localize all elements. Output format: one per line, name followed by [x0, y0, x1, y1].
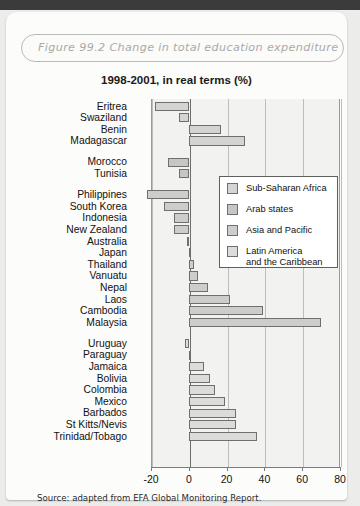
chart-legend: Sub-Saharan AfricaArab statesAsia and Pa… [219, 176, 338, 268]
x-tick-label-80: 80 [334, 473, 346, 485]
bar [179, 113, 188, 122]
x-tick-label-60: 60 [296, 473, 308, 485]
legend-swatch-3 [227, 225, 238, 236]
bar-row: Colombia [6, 384, 347, 396]
bar [189, 283, 208, 292]
category-label: St Kitts/Nevis [0, 419, 127, 431]
category-label: Nepal [0, 282, 127, 294]
category-label: Paraguay [0, 349, 127, 361]
category-label: New Zealand [0, 224, 127, 236]
category-label: Barbados [0, 407, 127, 419]
bar-row: Malaysia [6, 317, 347, 329]
bar-row: Jamaica [6, 361, 347, 373]
bar [179, 169, 188, 178]
bar [174, 213, 189, 222]
bar [189, 432, 257, 441]
bar [189, 136, 246, 145]
category-label: Cambodia [0, 305, 127, 317]
bar-row: Vanuatu [6, 270, 347, 282]
category-label: Uruguay [0, 338, 127, 350]
category-label: Indonesia [0, 212, 127, 224]
category-label: Japan [0, 247, 127, 259]
bar-row: Mexico [6, 396, 347, 408]
bar-row: Laos [6, 294, 347, 306]
figure-source: Source: adapted from EFA Global Monitori… [37, 493, 261, 503]
bar [189, 260, 195, 269]
bar [189, 374, 210, 383]
bar [189, 362, 204, 371]
x-tick-40 [264, 467, 265, 471]
bar-row: Barbados [6, 407, 347, 419]
category-label: Vanuatu [0, 270, 127, 282]
bar-row: Morocco [6, 156, 347, 168]
legend-swatch-1 [227, 183, 238, 194]
bar [189, 306, 263, 315]
figure-caption: Figure 99.2 Change in total education ex… [38, 41, 339, 54]
legend-label-4: Latin Americaand the Caribbean [246, 246, 323, 267]
bar [168, 158, 189, 167]
category-label: Mexico [0, 396, 127, 408]
bar [189, 271, 198, 280]
legend-label-2: Arab states [246, 204, 293, 215]
category-label: Swaziland [0, 112, 127, 124]
category-label: Philippines [0, 189, 127, 201]
bar-row: Uruguay [6, 338, 347, 350]
bar-row: Nepal [6, 282, 347, 294]
x-tick-80 [340, 467, 341, 471]
category-label: Trinidad/Tobago [0, 431, 127, 443]
figure-page: Figure 99.2 Change in total education ex… [0, 0, 360, 506]
x-axis-line [151, 467, 340, 468]
bar-row: St Kitts/Nevis [6, 419, 347, 431]
legend-label-1: Sub-Saharan Africa [246, 183, 327, 194]
bar [189, 125, 221, 134]
figure-card: Figure 99.2 Change in total education ex… [6, 12, 347, 500]
bar-row: Madagascar [6, 135, 347, 147]
category-label: Eritrea [0, 101, 127, 113]
bar [174, 225, 189, 234]
bar-row: Eritrea [6, 101, 347, 113]
category-label: Jamaica [0, 361, 127, 373]
x-tick-0 [189, 467, 190, 471]
bar-row: Cambodia [6, 305, 347, 317]
bar-row: Paraguay [6, 349, 347, 361]
bar [164, 202, 189, 211]
x-tick-20 [227, 467, 228, 471]
bar [189, 397, 225, 406]
category-label: Laos [0, 294, 127, 306]
category-label: Madagascar [0, 135, 127, 147]
bar [189, 295, 231, 304]
x-tick-label-20: 20 [221, 473, 233, 485]
bar-row: Swaziland [6, 112, 347, 124]
bar [185, 339, 189, 348]
category-label: Thailand [0, 259, 127, 271]
category-label: South Korea [0, 201, 127, 213]
bar [189, 318, 321, 327]
page-top-strip [0, 0, 360, 10]
category-label: Bolivia [0, 373, 127, 385]
category-label: Malaysia [0, 317, 127, 329]
bar [189, 351, 191, 360]
x-tick--20 [151, 467, 152, 471]
x-tick-label-40: 40 [259, 473, 271, 485]
category-label: Colombia [0, 384, 127, 396]
bar [189, 248, 191, 257]
bar [147, 190, 189, 199]
bar [189, 409, 236, 418]
bar-row: Bolivia [6, 373, 347, 385]
bar [155, 102, 189, 111]
legend-swatch-2 [227, 204, 238, 215]
category-label: Morocco [0, 156, 127, 168]
x-tick-60 [302, 467, 303, 471]
bar-row: Benin [6, 124, 347, 136]
category-label: Benin [0, 124, 127, 136]
legend-label-3: Asia and Pacific [246, 225, 312, 236]
bar [189, 420, 236, 429]
category-label: Tunisia [0, 168, 127, 180]
chart-title: 1998-2001, in real terms (%) [6, 74, 347, 86]
legend-swatch-4 [227, 246, 238, 257]
bar [187, 237, 189, 246]
bar-row: Trinidad/Tobago [6, 431, 347, 443]
bar [189, 385, 215, 394]
x-tick-label-0: 0 [186, 473, 192, 485]
x-tick-label--20: -20 [143, 473, 158, 485]
